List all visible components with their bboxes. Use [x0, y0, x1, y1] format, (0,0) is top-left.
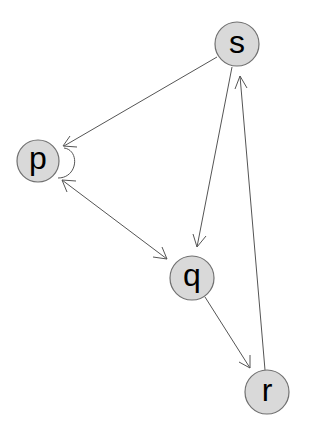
- node-q-label: q: [183, 257, 201, 293]
- node-s: s: [215, 22, 259, 66]
- edge-p-self-loop: [58, 148, 75, 178]
- edge-s-to-q: [197, 67, 232, 247]
- edge-r-to-s: [240, 76, 265, 370]
- node-r-label: r: [262, 372, 273, 408]
- node-q: q: [170, 256, 214, 300]
- edge-s-to-p: [64, 57, 217, 146]
- graph-canvas: s p q r: [0, 0, 309, 439]
- node-p: p: [17, 140, 59, 182]
- node-s-label: s: [229, 24, 245, 60]
- node-r: r: [245, 370, 289, 414]
- edges: [58, 57, 265, 370]
- edge-q-to-r: [205, 297, 250, 368]
- edge-p-q-bidirectional: [62, 180, 167, 259]
- node-p-label: p: [29, 140, 47, 176]
